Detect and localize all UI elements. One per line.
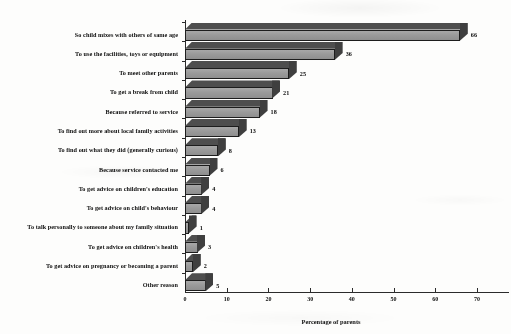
bar — [185, 23, 467, 41]
category-label: Because referred to service — [106, 108, 178, 115]
bar-side-face — [272, 80, 280, 98]
category-label: To find out more about local family acti… — [58, 127, 178, 134]
y-axis-tick — [182, 41, 186, 42]
bar-top-face — [185, 119, 246, 126]
x-axis-tick-label: 30 — [307, 296, 313, 302]
category-label: To talk personally to someone about my f… — [27, 223, 178, 230]
x-axis-tick — [310, 288, 311, 292]
x-axis-tick — [477, 288, 478, 292]
bar-value-label: 13 — [250, 127, 256, 134]
x-axis-tick — [352, 288, 353, 292]
bar-value-label: 1 — [200, 224, 203, 231]
bar — [185, 235, 205, 253]
bar — [185, 177, 209, 195]
bar-front-face — [185, 107, 260, 118]
y-axis-tick — [182, 176, 186, 177]
bar — [185, 119, 246, 137]
x-axis-title: Percentage of parents — [301, 318, 360, 325]
bar-value-label: 2 — [204, 262, 207, 269]
bar-side-face — [260, 100, 268, 118]
y-axis-tick — [182, 99, 186, 100]
bar-side-face — [335, 42, 343, 60]
category-label: Because service contacted me — [99, 166, 178, 173]
bar-front-face — [185, 242, 198, 253]
bar-value-label: 66 — [471, 31, 477, 38]
bar-side-face — [205, 273, 213, 291]
bar-top-face — [185, 23, 467, 30]
x-axis-tick — [394, 288, 395, 292]
y-axis-tick — [182, 80, 186, 81]
category-label: To get a break from child — [110, 88, 178, 95]
bar-side-face — [197, 235, 205, 253]
x-axis-tick-label: 10 — [224, 296, 230, 302]
x-axis-tick-label: 60 — [432, 296, 438, 302]
bar-value-label: 18 — [271, 108, 277, 115]
bar-side-face — [201, 196, 209, 214]
bar-front-face — [185, 165, 210, 176]
bar-front-face — [185, 30, 460, 41]
x-axis-tick — [435, 288, 436, 292]
bar-side-face — [189, 215, 197, 233]
y-axis-tick — [182, 196, 186, 197]
bar-front-face — [185, 280, 206, 291]
bar — [185, 196, 209, 214]
bar-value-label: 3 — [208, 243, 211, 250]
bar-top-face — [185, 61, 296, 68]
category-label: To use the facilities, toys or equipment — [75, 50, 178, 57]
x-axis-tick-label: 0 — [184, 296, 187, 302]
bar-value-label: 25 — [300, 70, 306, 77]
bar-value-label: 4 — [212, 185, 215, 192]
bar-value-label: 5 — [216, 282, 219, 289]
y-axis-tick — [182, 118, 186, 119]
bar-side-face — [193, 254, 201, 272]
bar-front-face — [185, 222, 189, 233]
category-label: To meet other parents — [119, 69, 178, 76]
bar-front-face — [185, 203, 202, 214]
y-axis-tick — [182, 61, 186, 62]
y-axis-tick — [182, 253, 186, 254]
bar-front-face — [185, 261, 193, 272]
bar — [185, 100, 267, 118]
x-axis-tick-label: 50 — [391, 296, 397, 302]
y-axis-tick — [182, 234, 186, 235]
x-axis-tick-label: 40 — [349, 296, 355, 302]
bar-front-face — [185, 87, 273, 98]
y-axis-tick — [182, 273, 186, 274]
bar-front-face — [185, 126, 239, 137]
category-axis-labels: So child mixes with others of same ageTo… — [0, 0, 183, 334]
y-axis-tick — [182, 138, 186, 139]
bar-side-face — [201, 177, 209, 195]
x-axis-line — [185, 292, 509, 293]
category-label: To get advice on children's education — [79, 185, 178, 192]
bar-value-label: 8 — [229, 147, 232, 154]
category-label: To get advice on child's behaviour — [87, 204, 178, 211]
bar-value-label: 36 — [346, 50, 352, 57]
category-label: To get advice on children's health — [88, 243, 178, 250]
bar-value-label: 21 — [283, 89, 289, 96]
y-axis-tick — [182, 22, 186, 23]
y-axis-tick — [182, 215, 186, 216]
bar — [185, 254, 200, 272]
bar-side-face — [289, 61, 297, 79]
bar-side-face — [210, 158, 218, 176]
bar-front-face — [185, 49, 335, 60]
category-label: To find out what they did (generally cur… — [58, 146, 178, 153]
x-axis-tick — [227, 288, 228, 292]
bar — [185, 215, 196, 233]
bar — [185, 138, 225, 156]
bar-top-face — [185, 100, 267, 107]
bar-front-face — [185, 68, 289, 79]
bar-value-label: 6 — [221, 166, 224, 173]
y-axis-tick — [182, 157, 186, 158]
bar-front-face — [185, 184, 202, 195]
bar-value-label: 4 — [212, 205, 215, 212]
bar-top-face — [185, 80, 280, 87]
bar-side-face — [460, 23, 468, 41]
x-axis-tick-label: 70 — [474, 296, 480, 302]
bar — [185, 80, 280, 98]
chart-container: So child mixes with others of same ageTo… — [0, 0, 511, 334]
bar-front-face — [185, 145, 218, 156]
category-label: Other reason — [143, 281, 178, 288]
bar — [185, 158, 217, 176]
category-label: To get advice on pregnancy or becoming a… — [46, 262, 178, 269]
